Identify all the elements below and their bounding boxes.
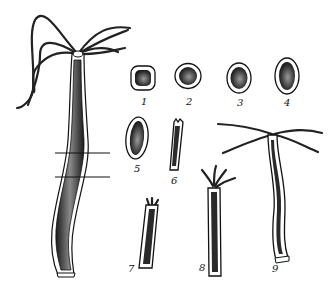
stage-9: 9	[218, 124, 322, 274]
stage-3: 3	[227, 63, 251, 108]
stage-5-label: 5	[134, 163, 140, 174]
main-hydra-foot	[57, 273, 75, 277]
stage-8: 8	[199, 166, 235, 276]
stage-4: 4	[275, 58, 299, 108]
stage-7: 7	[128, 198, 158, 274]
stage-8-label: 8	[199, 262, 205, 273]
stage-9-label: 9	[272, 263, 279, 274]
hydra-regeneration-figure: 1 2 3 4 5 6 7	[0, 0, 336, 283]
stage-1: 1	[131, 66, 155, 107]
stage-4-label: 4	[283, 97, 290, 108]
stage-3-label: 3	[237, 97, 243, 108]
stage-7-label: 7	[128, 263, 135, 274]
stage-6: 6	[170, 119, 183, 186]
stage-1-label: 1	[141, 96, 147, 107]
main-hydra	[17, 16, 130, 277]
stage-6-label: 6	[171, 175, 178, 186]
stage-2: 2	[175, 64, 201, 108]
stage-2-label: 2	[185, 96, 192, 107]
stage-5: 5	[124, 116, 150, 174]
main-hydra-hypostome	[73, 51, 83, 57]
